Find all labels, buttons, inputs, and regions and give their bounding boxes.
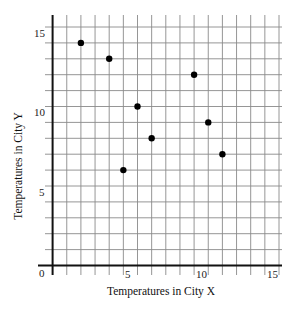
scatter-chart: 15 10 5 0 5 10 15 Temperatures in City X… bbox=[0, 0, 298, 313]
grid-lines bbox=[45, 15, 282, 275]
data-point bbox=[134, 103, 140, 109]
y-tick-5: 5 bbox=[39, 186, 45, 198]
data-point bbox=[219, 151, 225, 157]
data-point bbox=[78, 40, 84, 46]
y-tick-10: 10 bbox=[34, 106, 46, 118]
data-point bbox=[205, 119, 211, 125]
data-point bbox=[106, 56, 112, 62]
origin-label: 0 bbox=[39, 267, 45, 279]
axes bbox=[38, 15, 282, 275]
x-tick-10: 10 bbox=[196, 268, 208, 280]
data-point bbox=[148, 135, 154, 141]
x-axis-title: Temperatures in City X bbox=[107, 285, 216, 298]
y-tick-15: 15 bbox=[34, 27, 46, 39]
data-point bbox=[191, 72, 197, 78]
x-tick-15: 15 bbox=[267, 268, 279, 280]
y-axis-title: Temperatures in City Y bbox=[12, 111, 25, 219]
data-point bbox=[120, 167, 126, 173]
x-tick-5: 5 bbox=[125, 268, 131, 280]
